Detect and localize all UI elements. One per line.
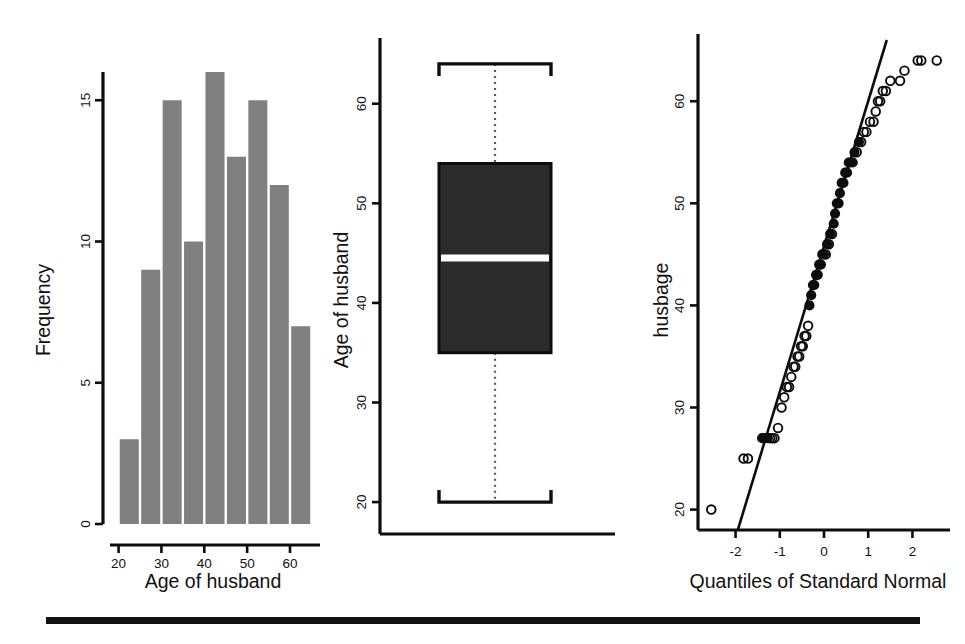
bottom-rule <box>46 617 920 624</box>
qqplot-point <box>839 179 848 188</box>
histogram-x-tick-label: 30 <box>154 556 169 571</box>
histogram-y-tick-label: 0 <box>78 520 93 528</box>
qqplot-x-tick-label: -1 <box>774 544 786 559</box>
histogram-bars <box>120 72 310 524</box>
qqplot-point <box>787 373 796 382</box>
qqplot-x-axis-title: Quantiles of Standard Normal <box>690 570 947 592</box>
qqplot-point <box>814 270 823 279</box>
qqplot-x-ticks: -2-1012 <box>730 530 917 559</box>
qqplot-point <box>932 56 941 65</box>
boxplot-y-tick-label: 40 <box>354 295 369 310</box>
qqplot-x-tick-label: -2 <box>730 544 742 559</box>
histogram-x-tick-label: 40 <box>197 556 212 571</box>
qqplot-y-tick-label: 40 <box>672 298 687 313</box>
qqplot-point <box>807 291 816 300</box>
three-panel-figure: 051015 2030405060 Frequency Age of husba… <box>0 0 965 644</box>
qqplot-point <box>774 424 783 433</box>
qqplot-point <box>831 209 840 218</box>
histogram-y-axis-title: Frequency <box>32 264 54 356</box>
qqplot-point <box>896 77 905 86</box>
histogram-bar <box>248 100 267 524</box>
qqplot-y-tick-label: 50 <box>672 196 687 211</box>
qqplot-point <box>805 301 814 310</box>
boxplot-y-axis-title: Age of husband <box>330 232 352 369</box>
qqplot-point <box>804 322 813 331</box>
histogram-y-tick-label: 10 <box>78 234 93 249</box>
qqplot-y-tick-label: 20 <box>672 502 687 517</box>
qqplot-x-tick-label: 0 <box>820 544 828 559</box>
qqplot-x-tick-label: 1 <box>864 544 872 559</box>
histogram-bar <box>270 185 289 524</box>
histogram-y-ticks: 051015 <box>78 93 103 528</box>
qqplot-point <box>810 281 819 290</box>
qqplot-point <box>836 189 845 198</box>
qqplot-y-tick-label: 60 <box>672 94 687 109</box>
qqplot-point <box>780 393 789 402</box>
histogram-bar <box>184 242 203 525</box>
histogram-bar <box>291 326 310 524</box>
histogram-bar <box>227 157 246 524</box>
histogram-y-tick-label: 5 <box>78 379 93 387</box>
histogram-x-axis-title: Age of husband <box>145 570 282 592</box>
qqplot-panel: 2030405060 -2-1012 husbage Quantiles of … <box>650 0 965 600</box>
qqplot-point <box>817 260 826 269</box>
qqplot-point <box>848 158 857 167</box>
qqplot-point <box>834 199 843 208</box>
qqplot-point <box>777 403 786 412</box>
boxplot-svg: 2030405060 Age of husband <box>330 0 650 600</box>
histogram-x-ticks: 2030405060 <box>111 545 297 571</box>
histogram-bar <box>120 439 139 524</box>
histogram-x-tick-label: 50 <box>240 556 255 571</box>
qqplot-point <box>900 66 909 75</box>
qqplot-point <box>871 107 880 116</box>
histogram-x-tick-label: 60 <box>282 556 297 571</box>
histogram-y-tick-label: 15 <box>78 93 93 108</box>
qqplot-svg: 2030405060 -2-1012 husbage Quantiles of … <box>650 0 965 600</box>
qqplot-y-tick-label: 30 <box>672 400 687 415</box>
qqplot-y-axis-title: husbage <box>650 263 672 338</box>
boxplot-y-tick-label: 60 <box>354 96 369 111</box>
qqplot-point <box>886 77 895 86</box>
histogram-svg: 051015 2030405060 Frequency Age of husba… <box>0 0 330 600</box>
histogram-x-tick-label: 20 <box>111 556 126 571</box>
boxplot-y-ticks: 2030405060 <box>354 96 380 509</box>
boxplot-panel: 2030405060 Age of husband <box>330 0 650 600</box>
qqplot-point <box>829 219 838 228</box>
boxplot-y-tick-label: 20 <box>354 495 369 510</box>
qqplot-point <box>707 505 716 514</box>
boxplot-y-tick-label: 30 <box>354 395 369 410</box>
qqplot-data-points <box>707 56 941 514</box>
boxplot-y-tick-label: 50 <box>354 196 369 211</box>
boxplot-glyph <box>439 64 551 502</box>
histogram-bar <box>205 72 224 524</box>
histogram-bar <box>141 270 160 524</box>
histogram-panel: 051015 2030405060 Frequency Age of husba… <box>0 0 330 600</box>
histogram-bar <box>163 100 182 524</box>
qqplot-x-tick-label: 2 <box>909 544 917 559</box>
qqplot-y-ticks: 2030405060 <box>672 94 698 517</box>
qqplot-point <box>843 168 852 177</box>
